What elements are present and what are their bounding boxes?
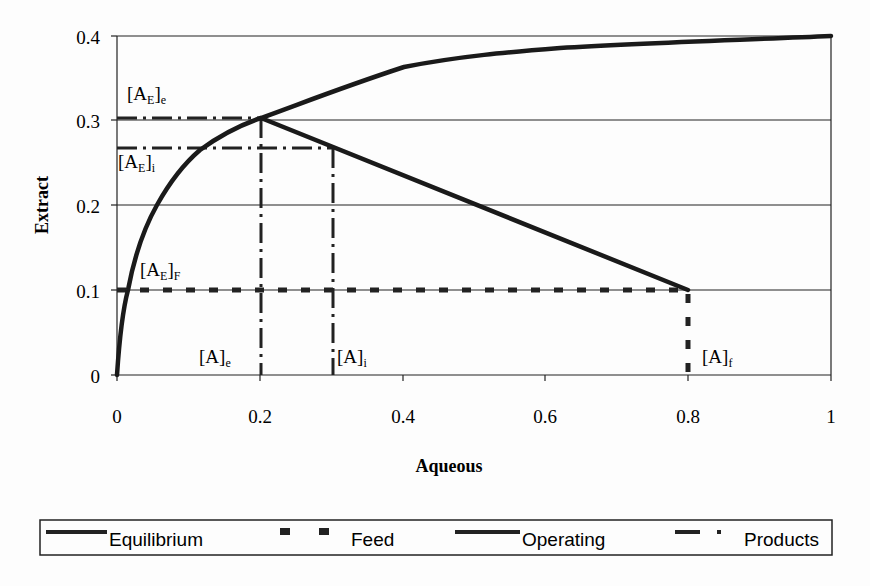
annotation-AE-i: [AE]i: [118, 151, 156, 175]
y-axis-ticks: [111, 36, 117, 375]
legend-item-products: Products: [675, 529, 819, 550]
y-tick-labels: 0.4 0.3 0.2 0.1 0: [76, 27, 100, 387]
series-operating: [261, 118, 688, 290]
x-axis-ticks: [117, 375, 831, 381]
y-tick: 0.3: [76, 111, 100, 132]
y-tick: 0.1: [76, 281, 100, 302]
chart: 0.4 0.3 0.2 0.1 0 0 0.2 0.4 0.6 0.8 1 Aq…: [0, 0, 870, 586]
x-tick: 0.6: [533, 406, 557, 427]
y-tick: 0.2: [76, 196, 100, 217]
annotation-A-f: [A]f: [702, 346, 732, 370]
annotation-A-e: [A]e: [199, 346, 231, 370]
x-tick: 0: [112, 406, 122, 427]
legend-item-equilibrium: Equilibrium: [46, 529, 203, 550]
annotations: [AE]e [AE]i [AE]F [A]e [A]i [A]f: [118, 83, 732, 370]
x-axis-title: Aqueous: [415, 456, 482, 476]
x-tick: 0.2: [248, 406, 272, 427]
x-tick-labels: 0 0.2 0.4 0.6 0.8 1: [112, 406, 836, 427]
legend-item-feed: Feed: [280, 528, 394, 550]
y-tick: 0.4: [76, 27, 100, 48]
y-tick: 0: [91, 366, 101, 387]
annotation-AE-F: [AE]F: [140, 259, 181, 283]
svg-text:Feed: Feed: [351, 529, 394, 550]
annotation-AE-e: [AE]e: [127, 83, 166, 107]
y-axis-title: Extract: [32, 176, 52, 234]
x-tick: 1: [826, 406, 836, 427]
svg-text:Products: Products: [744, 529, 819, 550]
annotation-A-i: [A]i: [337, 346, 367, 370]
legend-item-operating: Operating: [455, 529, 605, 550]
svg-text:Equilibrium: Equilibrium: [109, 529, 203, 550]
legend: Equilibrium Feed Operating Products: [40, 520, 832, 555]
svg-text:Operating: Operating: [522, 529, 605, 550]
x-tick: 0.8: [676, 406, 700, 427]
x-tick: 0.4: [391, 406, 415, 427]
